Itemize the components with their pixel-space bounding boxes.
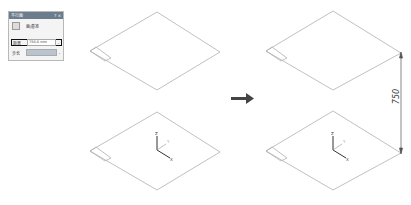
plane-left-top[interactable] (90, 12, 220, 90)
dimension-value: 750 (392, 89, 401, 104)
arrow-right-icon (231, 93, 254, 104)
diagram-canvas: Z Y X Z Y X (0, 0, 411, 205)
svg-text:Y: Y (342, 139, 346, 144)
svg-text:X: X (170, 157, 173, 162)
axis-triad-left: Z Y X (155, 131, 173, 162)
axis-triad-right: Z Y X (331, 131, 349, 162)
svg-text:Y: Y (166, 139, 170, 144)
plane-left-bottom[interactable] (90, 112, 220, 190)
svg-text:Z: Z (155, 131, 158, 136)
svg-text:X: X (346, 157, 349, 162)
svg-text:Z: Z (331, 131, 334, 136)
plane-right-top[interactable] (266, 11, 401, 90)
